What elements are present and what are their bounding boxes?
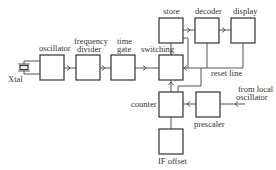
- switching-block: [159, 55, 183, 80]
- prescaler-block: [196, 92, 220, 117]
- frequency-divider-label-2: divider: [77, 44, 101, 54]
- crystal-icon: [16, 61, 40, 74]
- from-local-label-2: oscillator: [236, 92, 268, 102]
- time-gate-block: [111, 55, 135, 80]
- switching-label: switching: [141, 44, 175, 54]
- store-label: store: [163, 6, 180, 16]
- if-offset-label: IF offset: [158, 156, 188, 166]
- counter-label: counter: [131, 99, 157, 109]
- prescaler-label: prescaler: [194, 119, 225, 129]
- wire-store-switching-return: [183, 38, 188, 68]
- oscillator-block: [40, 55, 64, 80]
- display-label: display: [233, 6, 258, 16]
- block-diagram: Xtal oscillator frequency divider time g…: [0, 0, 276, 170]
- time-gate-label-2: gate: [117, 44, 131, 54]
- decoder-label: decoder: [195, 6, 222, 16]
- store-block: [159, 18, 183, 43]
- if-offset-block: [159, 129, 183, 154]
- counter-block: [159, 92, 183, 117]
- display-block: [231, 18, 255, 43]
- reset-line-label: reset line: [211, 68, 242, 78]
- xtal-label: Xtal: [8, 74, 23, 84]
- decoder-block: [195, 18, 219, 43]
- oscillator-label: oscillator: [39, 43, 71, 53]
- frequency-divider-block: [76, 55, 100, 80]
